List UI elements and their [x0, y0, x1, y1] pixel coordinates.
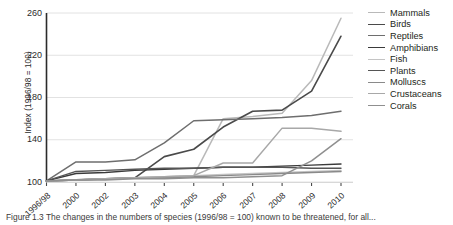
figure-container: Index (1996/98 = 100) 260220180140100 19…	[0, 0, 453, 225]
legend-item[interactable]: Molluscs	[368, 77, 453, 89]
legend-label: Corals	[390, 101, 417, 111]
legend-item[interactable]: Fish	[368, 53, 453, 65]
figure-caption: Figure 1.3 The changes in the numbers of…	[6, 212, 453, 222]
legend-item[interactable]: Amphibians	[368, 42, 453, 54]
legend-label: Amphibians	[390, 43, 438, 53]
legend-label: Molluscs	[390, 77, 426, 87]
legend-swatch-icon	[368, 93, 385, 94]
legend-item[interactable]: Birds	[368, 19, 453, 31]
legend-swatch-icon	[368, 105, 385, 106]
legend-swatch-icon	[368, 59, 385, 60]
legend-item[interactable]: Mammals	[368, 7, 453, 19]
legend-swatch-icon	[368, 12, 385, 13]
legend-label: Mammals	[390, 8, 430, 18]
legend-swatch-icon	[368, 24, 385, 25]
chart-legend: MammalsBirdsReptilesAmphibiansFishPlants…	[368, 7, 453, 111]
legend-label: Fish	[390, 54, 407, 64]
legend-item[interactable]: Crustaceans	[368, 88, 453, 100]
legend-label: Crustaceans	[390, 89, 442, 99]
legend-label: Birds	[390, 19, 411, 29]
legend-item[interactable]: Reptiles	[368, 30, 453, 42]
legend-item[interactable]: Corals	[368, 100, 453, 112]
legend-swatch-icon	[368, 82, 385, 83]
legend-label: Reptiles	[390, 31, 423, 41]
legend-item[interactable]: Plants	[368, 65, 453, 77]
legend-swatch-icon	[368, 35, 385, 36]
legend-swatch-icon	[368, 70, 385, 71]
legend-label: Plants	[390, 66, 416, 76]
legend-swatch-icon	[368, 47, 385, 48]
